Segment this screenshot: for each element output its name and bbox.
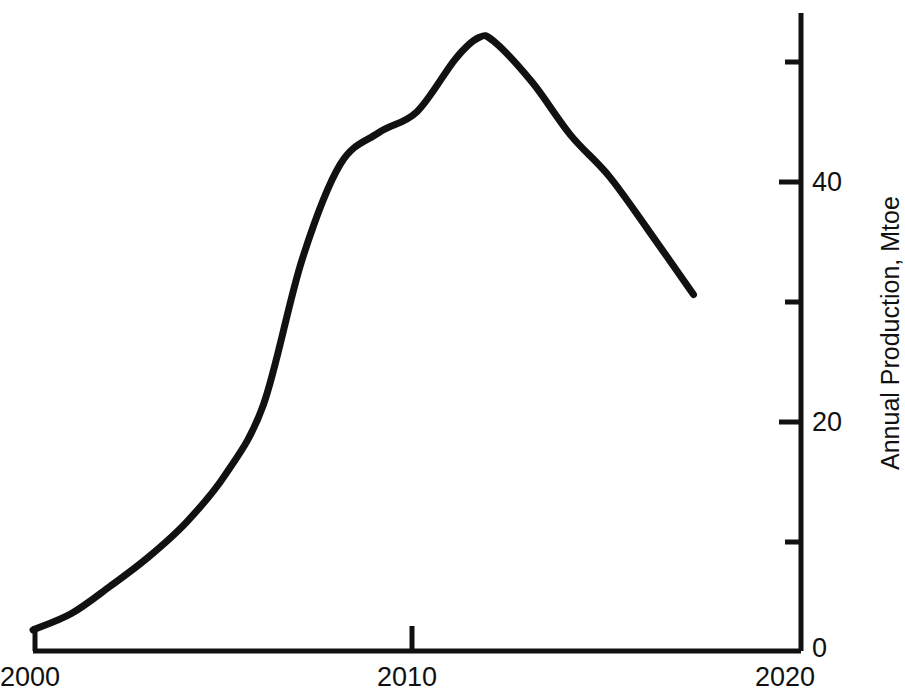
data-series-line	[33, 36, 693, 630]
y-tick-label-0: 0	[812, 633, 827, 664]
x-tick-label-2010: 2010	[377, 662, 437, 693]
y-tick-label-20: 20	[812, 407, 842, 438]
y-tick-label-40: 40	[812, 167, 842, 198]
x-tick-label-2000: 2000	[0, 662, 60, 693]
x-tick-label-2020: 2020	[755, 662, 815, 693]
y-axis-title: Annual Production, Mtoe	[876, 196, 905, 470]
